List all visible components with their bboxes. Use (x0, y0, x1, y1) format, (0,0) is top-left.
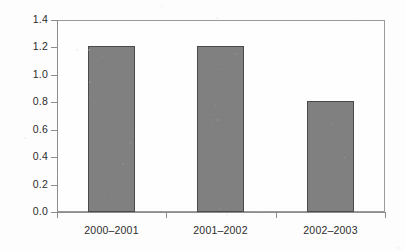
y-axis-tick (51, 20, 57, 21)
bar (88, 46, 135, 212)
y-axis-line (57, 20, 58, 213)
bar (307, 101, 354, 212)
y-axis-tick (51, 102, 57, 103)
y-axis-tick (51, 185, 57, 186)
x-axis-tick-label: 2002–2003 (276, 224, 385, 236)
y-axis-tick-label: 0.0 (2, 206, 48, 217)
y-axis-tick-label: 1.4 (2, 14, 48, 25)
y-axis-tick (51, 157, 57, 158)
y-axis-tick (51, 47, 57, 48)
y-axis-tick (51, 75, 57, 76)
y-axis-tick-label: 0.2 (2, 179, 48, 190)
y-axis-tick-label: 1.0 (2, 69, 48, 80)
bar (197, 46, 244, 212)
y-axis-tick-label: 0.8 (2, 96, 48, 107)
y-axis-tick-label: 1.2 (2, 41, 48, 52)
x-axis-tick (276, 213, 277, 218)
y-axis-tick (51, 130, 57, 131)
y-axis-tick-label: 0.6 (2, 124, 48, 135)
x-axis-tick (385, 213, 386, 218)
x-axis-tick (57, 213, 58, 218)
x-axis-tick (166, 213, 167, 218)
y-axis-tick-label: 0.4 (2, 151, 48, 162)
x-axis-line (57, 212, 386, 213)
x-axis-tick-label: 2001–2002 (166, 224, 275, 236)
x-axis-tick-label: 2000–2001 (57, 224, 166, 236)
bar-chart: 0.00.20.40.60.81.01.21.4 2000–20012001–2… (0, 0, 405, 251)
